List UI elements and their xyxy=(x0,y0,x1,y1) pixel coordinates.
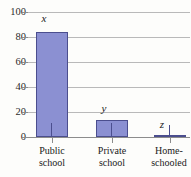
bar-value-label-x: x xyxy=(28,13,60,24)
bar-marker-private-school xyxy=(111,123,112,137)
bar-value-label-z: z xyxy=(146,119,178,130)
x-axis-label-line-1: Public xyxy=(22,145,82,157)
x-axis-label-line-2: schooled xyxy=(138,157,191,169)
bar-value-label-y: y xyxy=(88,103,120,114)
bar-private-school xyxy=(96,120,128,138)
x-axis-label-private-school: Private school xyxy=(82,145,142,168)
x-axis-label-home-schooled: Home- schooled xyxy=(138,145,191,168)
bar-marker-public-school xyxy=(51,123,52,137)
x-tick-home-schooled xyxy=(170,137,171,143)
bar-chart: 100 80 60 40 20 0 x y z Pu xyxy=(0,0,191,177)
x-axis-label-public-school: Public school xyxy=(22,145,82,168)
x-axis-label-line-1: Home- xyxy=(138,145,191,157)
x-axis-label-line-2: school xyxy=(82,157,142,169)
x-tick-private-school xyxy=(112,137,113,143)
bar-public-school xyxy=(36,32,68,137)
x-axis-label-line-2: school xyxy=(22,157,82,169)
x-tick-public-school xyxy=(52,137,53,143)
x-axis-label-line-1: Private xyxy=(82,145,142,157)
